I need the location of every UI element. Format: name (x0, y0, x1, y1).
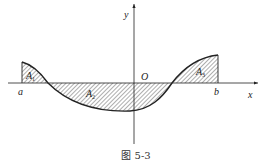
point-a-label: a (18, 86, 23, 97)
figure-caption: 图 5-3 (121, 150, 150, 161)
area-diagram: y O x a b A1 A2 A3 图 5-3 (0, 0, 264, 164)
x-axis-label: x (247, 89, 253, 100)
region-a3 (172, 55, 218, 83)
point-b-label: b (214, 86, 219, 97)
origin-label: O (141, 71, 148, 82)
y-axis-label: y (123, 9, 129, 20)
